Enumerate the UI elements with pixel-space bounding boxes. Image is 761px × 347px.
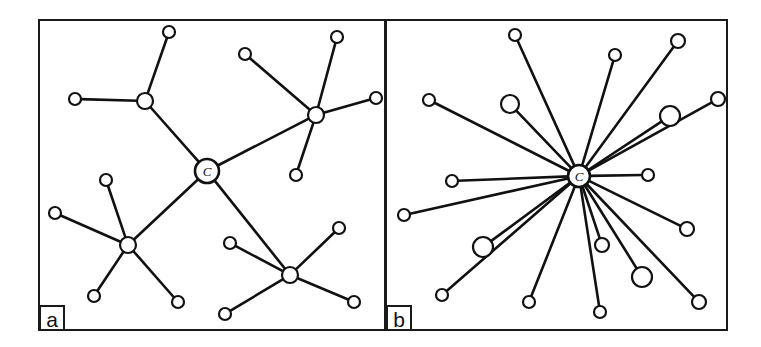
leaf-node-b-l15[interactable]	[436, 289, 448, 301]
edge-a-h2-to-a-l5	[323, 99, 371, 113]
edge-a-h2-to-a-l4	[249, 57, 311, 110]
edge-a-h4-to-a-l12	[295, 231, 335, 270]
edge-a-h2-to-a-l6	[298, 122, 314, 171]
leaf-node-b-l17[interactable]	[692, 295, 706, 309]
leaf-node-b-l13[interactable]	[595, 238, 609, 252]
hub-node-a-h2[interactable]	[308, 107, 324, 123]
leaf-node-b-l9[interactable]	[642, 169, 654, 181]
leaf-node-b-l5[interactable]	[501, 95, 519, 113]
leaf-node-b-l7[interactable]	[711, 92, 725, 106]
panels-layer: CC	[39, 20, 727, 330]
panel-graph-a: C	[49, 26, 382, 320]
leaf-node-b-l11[interactable]	[680, 222, 694, 236]
edge-a-h1-to-a-l2	[80, 99, 138, 101]
leaf-node-a-l8[interactable]	[49, 207, 61, 219]
edge-a-h1-to-a-l1	[147, 37, 167, 95]
nodes-b: C	[398, 29, 725, 318]
edge-a-h2-to-a-l3	[318, 42, 336, 108]
edge-a-h3-to-a-l9	[97, 251, 124, 292]
edge-b-C-to-b-l11	[588, 180, 682, 226]
nodes-a: C	[49, 26, 382, 320]
edge-a-h3-to-a-l8	[60, 215, 122, 242]
leaf-node-a-l12[interactable]	[333, 222, 345, 234]
leaf-node-a-l4[interactable]	[239, 48, 251, 60]
edge-b-C-to-b-l8	[457, 176, 569, 180]
hub-node-a-h4[interactable]	[282, 267, 298, 283]
edge-b-C-to-b-l9	[589, 175, 643, 176]
leaf-node-b-l16[interactable]	[523, 296, 535, 308]
panel-graph-b: C	[398, 29, 725, 318]
leaf-node-b-l4[interactable]	[423, 94, 435, 106]
leaf-node-a-l13[interactable]	[348, 296, 360, 308]
edge-a-C-to-a-h1	[150, 106, 200, 163]
network-diagram-svg: CC ab	[0, 0, 761, 347]
leaf-node-a-l7[interactable]	[100, 174, 112, 186]
edges-b	[409, 40, 713, 308]
edge-a-h4-to-a-l13	[296, 278, 349, 300]
edge-b-C-to-b-l12	[490, 182, 571, 242]
leaf-node-a-l6[interactable]	[290, 169, 302, 181]
edge-b-C-to-b-l10	[409, 178, 569, 214]
leaf-node-b-l2[interactable]	[609, 49, 621, 61]
leaf-node-a-l3[interactable]	[331, 31, 343, 43]
leaf-node-b-l14[interactable]	[632, 267, 652, 287]
leaf-node-b-l10[interactable]	[398, 209, 410, 221]
edge-a-C-to-a-h2	[217, 118, 310, 166]
edge-a-h3-to-a-l10	[133, 250, 175, 298]
center-node-label-a: C	[203, 164, 212, 179]
hub-node-a-h3[interactable]	[120, 237, 136, 253]
leaf-node-b-l12[interactable]	[473, 237, 493, 257]
panel-label-b: b	[393, 308, 405, 331]
leaf-node-b-l3[interactable]	[671, 34, 685, 48]
panel-frame-b	[386, 20, 727, 330]
edge-a-h3-to-a-l7	[108, 185, 126, 239]
leaf-node-a-l2[interactable]	[69, 93, 81, 105]
leaf-node-b-l1[interactable]	[509, 29, 521, 41]
hub-node-a-h1[interactable]	[137, 93, 153, 109]
leaf-node-a-l1[interactable]	[163, 26, 175, 38]
edge-a-C-to-a-h3	[133, 179, 199, 241]
leaf-node-a-l11[interactable]	[224, 237, 236, 249]
panel-label-a: a	[46, 308, 58, 331]
leaf-node-b-l6[interactable]	[660, 106, 680, 126]
figure-container: CC ab	[0, 0, 761, 347]
leaf-node-a-l9[interactable]	[88, 290, 100, 302]
center-node-label-b: C	[575, 169, 584, 184]
edge-a-h4-to-a-l14	[229, 279, 284, 312]
edge-b-C-to-b-l15	[446, 183, 572, 292]
leaf-node-b-l18[interactable]	[594, 306, 606, 318]
leaf-node-a-l14[interactable]	[219, 308, 231, 320]
leaf-node-a-l10[interactable]	[172, 296, 184, 308]
edge-b-C-to-b-l16	[531, 185, 575, 297]
edge-b-C-to-b-l6	[587, 121, 662, 171]
leaf-node-a-l5[interactable]	[370, 92, 382, 104]
edge-a-C-to-a-h4	[214, 180, 286, 270]
leaf-node-b-l8[interactable]	[446, 175, 458, 187]
